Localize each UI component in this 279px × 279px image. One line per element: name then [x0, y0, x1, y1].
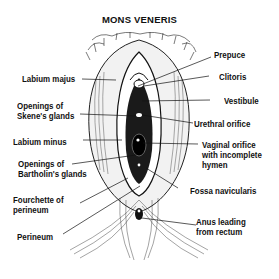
label-labium-minus: Labium minus: [13, 137, 67, 147]
label-openings-bartholin: Openings of Bartholin's glands: [18, 159, 87, 179]
label-vaginal-orifice: Vaginal orifice with incomplete hymen: [202, 140, 262, 170]
label-labium-majus: Labium majus: [22, 74, 75, 84]
label-perineum: Perineum: [17, 232, 53, 242]
label-fourchette: Fourchette of perineum: [13, 195, 64, 215]
label-fossa-navicularis: Fossa navicularis: [190, 186, 256, 196]
vaginal-orifice-shape: [132, 134, 146, 156]
anatomy-diagram: MONS VENERIS Labium majus Openings of Sk…: [0, 0, 279, 279]
label-anus: Anus leading from rectum: [196, 217, 246, 237]
diagram-title: MONS VENERIS: [0, 14, 279, 25]
label-openings-skene: Openings of Skene's glands: [17, 101, 74, 121]
label-prepuce: Prepuce: [214, 50, 245, 60]
urethral-orifice-shape: [136, 113, 142, 117]
label-vestibule: Vestibule: [224, 96, 259, 106]
label-clitoris: Clitoris: [219, 72, 246, 82]
label-urethral-orifice: Urethral orifice: [194, 119, 250, 129]
